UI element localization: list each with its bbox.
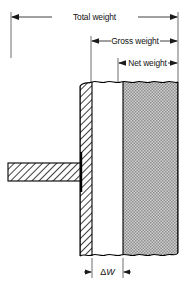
support-stem bbox=[8, 163, 80, 181]
total-weight-arrow-right-icon bbox=[170, 14, 178, 20]
delta-w-label: ΔW bbox=[100, 267, 116, 277]
delta-w-variable: W bbox=[106, 267, 116, 277]
weight-dimension-diagram: Total weight Gross weight Net weight bbox=[0, 0, 189, 288]
gross-weight-arrow-left-icon bbox=[91, 38, 99, 43]
container-body bbox=[80, 78, 179, 260]
gross-weight-label: Gross weight bbox=[111, 36, 159, 46]
dimension-net-weight: Net weight bbox=[118, 58, 178, 84]
total-weight-arrow-left-icon bbox=[11, 14, 19, 20]
delta-w-arrow-right-icon bbox=[123, 270, 130, 275]
net-contents bbox=[123, 78, 179, 260]
net-weight-arrow-left-icon bbox=[118, 60, 126, 65]
gross-weight-arrow-right-icon bbox=[170, 38, 178, 43]
net-weight-label: Net weight bbox=[128, 58, 167, 68]
delta-w-arrow-left-icon bbox=[85, 270, 92, 275]
diagram-canvas: Total weight Gross weight Net weight bbox=[0, 0, 189, 288]
dimension-delta-w: ΔW bbox=[84, 258, 131, 278]
support-stem-body bbox=[8, 163, 80, 181]
dimension-total-weight: Total weight bbox=[11, 12, 178, 82]
net-weight-arrow-right-icon bbox=[170, 60, 178, 65]
seal-marker bbox=[80, 152, 82, 192]
container-fills bbox=[80, 78, 179, 260]
total-weight-label: Total weight bbox=[73, 12, 117, 22]
